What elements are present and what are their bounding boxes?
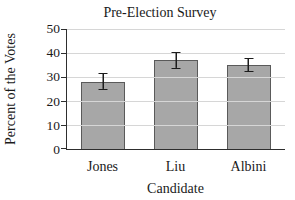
figure-canvas: Pre-Election Survey Percent of the Votes… <box>0 0 295 200</box>
y-tick-label: 50 <box>47 21 61 37</box>
error-bar-liu <box>172 52 181 69</box>
x-label-liu: Liu <box>139 159 212 175</box>
plot-area <box>66 29 285 150</box>
x-tick-labels: Jones Liu Albini <box>66 159 285 175</box>
y-tick-labels: 01020304050 <box>0 29 60 150</box>
chart-title: Pre-Election Survey <box>25 5 295 21</box>
bar-group-jones <box>67 29 140 149</box>
x-label-albini: Albini <box>212 159 285 175</box>
error-bar-albini <box>244 58 253 72</box>
bar-liu <box>154 60 198 149</box>
x-label-jones: Jones <box>66 159 139 175</box>
y-tick-label: 20 <box>47 94 61 110</box>
y-axis-tick <box>61 53 66 54</box>
bar-jones <box>81 82 125 149</box>
y-axis-tick <box>61 77 66 78</box>
bar-albini <box>227 65 271 149</box>
y-tick-label: 30 <box>47 69 61 85</box>
bar-group-albini <box>212 29 285 149</box>
y-tick-label: 0 <box>53 142 60 158</box>
y-axis-tick <box>61 29 66 30</box>
bar-group-liu <box>140 29 213 149</box>
y-tick-label: 10 <box>47 118 61 134</box>
y-tick-label: 40 <box>47 45 61 61</box>
error-bar-jones <box>99 73 108 90</box>
x-axis-title: Candidate <box>66 181 285 197</box>
y-axis-tick <box>61 101 66 102</box>
y-axis-tick <box>61 125 66 126</box>
y-axis-tick <box>61 148 66 149</box>
